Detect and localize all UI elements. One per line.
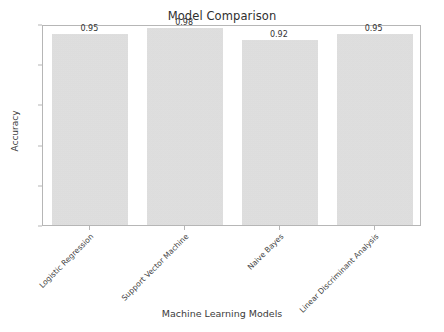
plot-area	[42, 25, 421, 226]
x-tick-mark	[279, 226, 280, 230]
x-tick-label: Linear Discriminant Analysis	[297, 232, 380, 315]
bar-value-label: 0.95	[365, 24, 383, 33]
bar	[147, 28, 223, 225]
x-axis-label: Machine Learning Models	[0, 308, 444, 319]
y-axis-label: Accuracy	[10, 71, 20, 191]
x-tick-mark	[184, 226, 185, 230]
x-tick-mark	[374, 226, 375, 230]
chart-title: Model Comparison	[0, 9, 444, 23]
bar-value-label: 0.92	[270, 30, 288, 39]
bar	[52, 34, 128, 225]
bars-layer	[43, 26, 420, 225]
bar	[242, 40, 318, 225]
x-tick-label: Logistic Regression	[38, 232, 96, 290]
x-tick-label: Naive Bayes	[246, 232, 286, 272]
bar-value-label: 0.95	[80, 24, 98, 33]
x-tick-label: Support Vector Machine	[120, 232, 191, 303]
bar-chart-figure: Model Comparison Accuracy 0.00.20.40.60.…	[0, 0, 444, 332]
x-tick-mark	[89, 226, 90, 230]
bar	[337, 34, 413, 225]
